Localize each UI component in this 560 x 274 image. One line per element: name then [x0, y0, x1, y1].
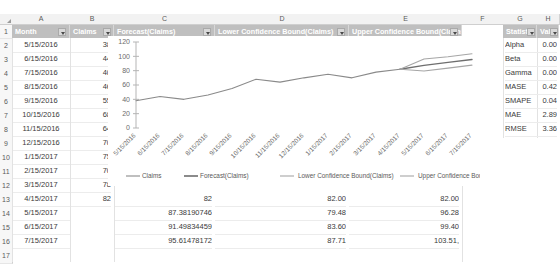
stat-name-gamma[interactable]: Gamma — [505, 66, 537, 81]
cell-upper-bound-row-13[interactable]: 82.00 — [349, 192, 459, 207]
cell-lower-bound-row-16[interactable]: 87.71 — [215, 234, 346, 249]
filter-button-upper-bound[interactable] — [450, 28, 458, 36]
cell-month-row-13[interactable]: 4/15/2017 — [12, 192, 70, 207]
cell-month-row-5[interactable]: 8/15/2016 — [12, 80, 70, 95]
cell-claims-row-9[interactable]: 70 — [70, 136, 111, 151]
cell-upper-bound-row-16[interactable]: 103.51, — [349, 234, 459, 249]
filter-button-value[interactable] — [550, 28, 558, 36]
cell-month-row-12[interactable]: 3/15/2017 — [12, 178, 70, 193]
stat-value-smape[interactable]: 0.04 — [537, 94, 557, 109]
table-header-month[interactable]: Month — [12, 25, 70, 38]
cell-month-row-6[interactable]: 9/15/2016 — [12, 94, 70, 109]
filter-button-forecast[interactable] — [203, 28, 211, 36]
column-header-c[interactable]: C — [114, 14, 216, 25]
cell-upper-bound-row-14[interactable]: 96.28 — [349, 206, 459, 221]
cell-month-row-16[interactable]: 7/15/2017 — [12, 234, 70, 249]
column-header-g[interactable]: G — [503, 14, 538, 25]
column-header-f[interactable]: F — [462, 14, 504, 25]
filter-button-lower-bound[interactable] — [337, 28, 345, 36]
stat-name-smape[interactable]: SMAPE — [505, 94, 537, 109]
cell-lower-bound-row-15[interactable]: 83.60 — [215, 220, 346, 235]
cell-month-row-14[interactable]: 5/15/2017 — [12, 206, 70, 221]
svg-text:Upper Confidence Bound(Claims): Upper Confidence Bound(Claims) — [418, 172, 480, 180]
filter-button-statistic[interactable] — [527, 28, 535, 36]
stat-value-gamma[interactable]: 0.00 — [537, 66, 557, 81]
cell-month-row-3[interactable]: 6/15/2016 — [12, 52, 70, 67]
svg-text:10/15/2016: 10/15/2016 — [229, 131, 257, 159]
svg-text:40: 40 — [122, 96, 130, 103]
cell-forecast-row-15[interactable]: 91.49834459 — [114, 220, 212, 235]
cell-claims-row-10[interactable]: 75 — [70, 150, 111, 165]
column-header-d[interactable]: D — [215, 14, 350, 25]
cell-claims-row-12[interactable]: 78 — [70, 178, 111, 193]
column-header-a[interactable]: A — [12, 14, 71, 25]
chart-canvas: 0204060801001205/15/20166/15/20167/15/20… — [108, 36, 480, 186]
cell-claims-row-2[interactable]: 38 — [70, 38, 111, 53]
cell-forecast-row-14[interactable]: 87.38190746 — [114, 206, 212, 221]
cell-claims-row-5[interactable]: 46 — [70, 80, 111, 95]
stat-value-mae[interactable]: 2.89 — [537, 108, 557, 123]
column-header-e[interactable]: E — [349, 14, 463, 25]
svg-text:7/15/2017: 7/15/2017 — [448, 131, 473, 156]
svg-text:6/15/2017: 6/15/2017 — [424, 131, 449, 156]
stat-value-alpha[interactable]: 0.00 — [537, 38, 557, 53]
header-label-upper-bound: Upper Confidence Bound(Claims) — [352, 27, 462, 36]
filter-button-claims[interactable] — [103, 28, 111, 36]
column-divider-b — [70, 38, 71, 262]
stat-name-beta[interactable]: Beta — [505, 52, 537, 67]
cell-claims-row-13[interactable]: 82 — [70, 192, 111, 207]
cell-claims-row-4[interactable]: 40 — [70, 66, 111, 81]
filter-button-month[interactable] — [58, 28, 66, 36]
table-header-statistic[interactable]: Statistic — [503, 25, 537, 38]
header-label-month: Month — [15, 27, 37, 36]
svg-text:Forecast(Claims): Forecast(Claims) — [200, 172, 249, 180]
svg-text:Claims: Claims — [142, 172, 162, 179]
select-all-triangle-icon — [7, 19, 11, 23]
stat-name-mae[interactable]: MAE — [505, 108, 537, 123]
cell-forecast-row-13[interactable]: 82 — [114, 192, 212, 207]
svg-text:5/15/2016: 5/15/2016 — [112, 131, 137, 156]
cell-month-row-11[interactable]: 2/15/2017 — [12, 164, 70, 179]
header-label-forecast: Forecast(Claims) — [117, 27, 175, 36]
cell-claims-row-3[interactable]: 44 — [70, 52, 111, 67]
header-label-lower-bound: Lower Confidence Bound(Claims) — [218, 27, 333, 36]
cell-month-row-9[interactable]: 12/15/2016 — [12, 136, 70, 151]
cell-claims-row-7[interactable]: 68 — [70, 108, 111, 123]
column-divider-a — [12, 38, 13, 262]
cell-upper-bound-row-15[interactable]: 99.40 — [349, 220, 459, 235]
svg-text:120: 120 — [118, 38, 130, 45]
cell-claims-row-6[interactable]: 55 — [70, 94, 111, 109]
stat-name-alpha[interactable]: Alpha — [505, 38, 537, 53]
cell-month-row-2[interactable]: 5/15/2016 — [12, 38, 70, 53]
svg-text:20: 20 — [122, 110, 130, 117]
svg-text:0: 0 — [126, 124, 130, 131]
stat-name-mase[interactable]: MASE — [505, 80, 537, 95]
table-header-value[interactable]: Value — [537, 25, 559, 38]
svg-text:Lower Confidence Bound(Claims): Lower Confidence Bound(Claims) — [298, 172, 394, 180]
column-header-b[interactable]: B — [70, 14, 115, 25]
cell-month-row-15[interactable]: 6/15/2017 — [12, 220, 70, 235]
cell-claims-row-8[interactable]: 64 — [70, 122, 111, 137]
svg-text:7/15/2016: 7/15/2016 — [160, 131, 185, 156]
column-divider-g — [503, 38, 504, 138]
forecast-line-chart[interactable]: 0204060801001205/15/20166/15/20167/15/20… — [108, 36, 480, 186]
svg-text:3/15/2017: 3/15/2017 — [352, 131, 377, 156]
svg-text:100: 100 — [118, 53, 130, 60]
column-header-h[interactable]: H — [537, 14, 560, 25]
stat-value-mase[interactable]: 0.42 — [537, 80, 557, 95]
cell-month-row-10[interactable]: 1/15/2017 — [12, 150, 70, 165]
stat-value-beta[interactable]: 0.00 — [537, 52, 557, 67]
cell-forecast-row-16[interactable]: 95.61478172 — [114, 234, 212, 249]
cell-lower-bound-row-13[interactable]: 82.00 — [215, 192, 346, 207]
stat-name-rmse[interactable]: RMSE — [505, 122, 537, 137]
cell-month-row-8[interactable]: 11/15/2016 — [12, 122, 70, 137]
stat-value-rmse[interactable]: 3.36 — [537, 122, 557, 137]
cell-claims-row-11[interactable]: 70 — [70, 164, 111, 179]
cell-month-row-4[interactable]: 7/15/2016 — [12, 66, 70, 81]
cell-month-row-7[interactable]: 10/15/2016 — [12, 108, 70, 123]
header-label-claims: Claims — [73, 27, 97, 36]
svg-text:4/15/2017: 4/15/2017 — [376, 131, 401, 156]
cell-lower-bound-row-14[interactable]: 79.48 — [215, 206, 346, 221]
svg-text:6/15/2016: 6/15/2016 — [136, 131, 161, 156]
